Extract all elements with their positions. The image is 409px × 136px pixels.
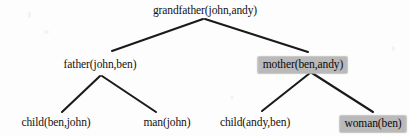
tree-node-man-john: man(john)	[143, 116, 190, 129]
tree-node-child-ben-john: child(ben,john)	[21, 116, 90, 129]
tree-edge-father-to-man-john	[102, 76, 156, 112]
tree-edge-root-to-mother	[205, 19, 308, 52]
tree-node-woman-ben: woman(ben)	[340, 116, 405, 132]
tree-edge-father-to-child-ben-john	[62, 76, 100, 112]
tree-node-child-andy-ben: child(andy,ben)	[220, 116, 290, 129]
tree-edge-mother-to-woman-ben	[312, 73, 373, 112]
tree-node-father: father(john,ben)	[64, 58, 137, 71]
tree-edge-mother-to-child-andy-ben	[262, 73, 310, 111]
tree-node-root: grandfather(john,andy)	[153, 4, 257, 17]
tree-edge-root-to-father	[112, 19, 203, 51]
proof-tree-diagram: grandfather(john,andy) father(john,ben) …	[0, 0, 409, 136]
tree-node-mother: mother(ben,andy)	[259, 57, 347, 73]
